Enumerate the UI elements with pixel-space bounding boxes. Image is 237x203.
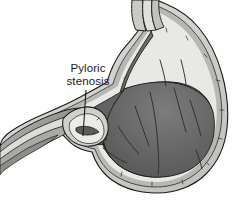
annotation-label-line1: Pyloric [70,62,105,74]
esophagus [132,0,164,31]
stomach-diagram-svg: Pyloric stenosis [0,0,237,203]
pyloric-stenosis-figure: Pyloric stenosis [0,0,237,203]
annotation-label-line2: stenosis [67,75,110,87]
